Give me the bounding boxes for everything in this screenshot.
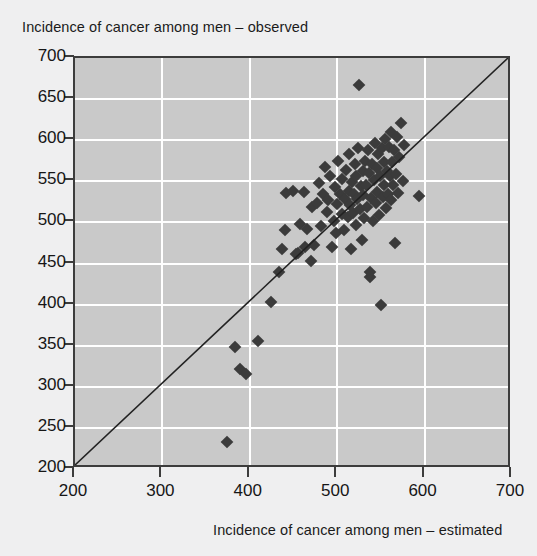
- y-axis-tick-label: 300: [38, 376, 66, 393]
- gridline-horizontal: [75, 345, 508, 347]
- gridline-vertical: [424, 58, 426, 465]
- data-point: [355, 233, 368, 246]
- y-axis-title: Incidence of cancer among men – observed: [22, 19, 308, 35]
- gridline-horizontal: [75, 221, 508, 223]
- x-axis-tick: [509, 467, 511, 477]
- y-axis-tick-label: 200: [38, 458, 66, 475]
- gridline-vertical: [161, 58, 163, 465]
- y-axis-tick-label: 400: [38, 294, 66, 311]
- x-axis-tick: [334, 467, 336, 477]
- x-axis-tick: [159, 467, 161, 477]
- gridline-horizontal: [75, 98, 508, 100]
- gridline-horizontal: [75, 139, 508, 141]
- x-axis-tick: [72, 467, 74, 477]
- x-axis-tick-label: 700: [496, 482, 524, 499]
- data-point: [395, 117, 408, 130]
- data-point: [278, 223, 291, 236]
- data-point: [276, 242, 289, 255]
- gridline-vertical: [336, 58, 338, 465]
- data-point: [264, 296, 277, 309]
- x-axis-tick: [247, 467, 249, 477]
- y-axis-tick-label: 500: [38, 211, 66, 228]
- data-point: [229, 341, 242, 354]
- plot-inner: [75, 58, 508, 465]
- gridline-horizontal: [75, 304, 508, 306]
- x-axis-tick-label: 600: [408, 482, 436, 499]
- data-point: [298, 186, 311, 199]
- y-axis-tick-label: 550: [38, 170, 66, 187]
- scatter-chart-figure: Incidence of cancer among men – observed…: [0, 0, 537, 556]
- data-point: [221, 435, 234, 448]
- gridline-horizontal: [75, 427, 508, 429]
- y-axis-tick-label: 700: [38, 47, 66, 64]
- x-axis-title: Incidence of cancer among men – estimate…: [213, 522, 502, 538]
- y-axis-tick-label: 650: [38, 88, 66, 105]
- data-point: [375, 298, 388, 311]
- x-axis-tick-label: 200: [59, 482, 87, 499]
- data-point: [305, 255, 318, 268]
- data-point: [345, 242, 358, 255]
- data-point: [272, 265, 285, 278]
- data-point: [389, 237, 402, 250]
- x-axis-tick-label: 400: [234, 482, 262, 499]
- gridline-horizontal: [75, 386, 508, 388]
- gridline-horizontal: [75, 180, 508, 182]
- y-axis-tick-label: 600: [38, 129, 66, 146]
- gridline-horizontal: [75, 263, 508, 265]
- data-point: [308, 238, 321, 251]
- y-axis-tick-label: 350: [38, 335, 66, 352]
- data-point: [353, 79, 366, 92]
- plot-area: [73, 56, 510, 467]
- x-axis-tick-label: 500: [321, 482, 349, 499]
- x-axis-tick-label: 300: [146, 482, 174, 499]
- gridline-vertical: [249, 58, 251, 465]
- y-axis-tick-label: 250: [38, 417, 66, 434]
- x-axis-tick: [422, 467, 424, 477]
- y-axis-tick-label: 450: [38, 253, 66, 270]
